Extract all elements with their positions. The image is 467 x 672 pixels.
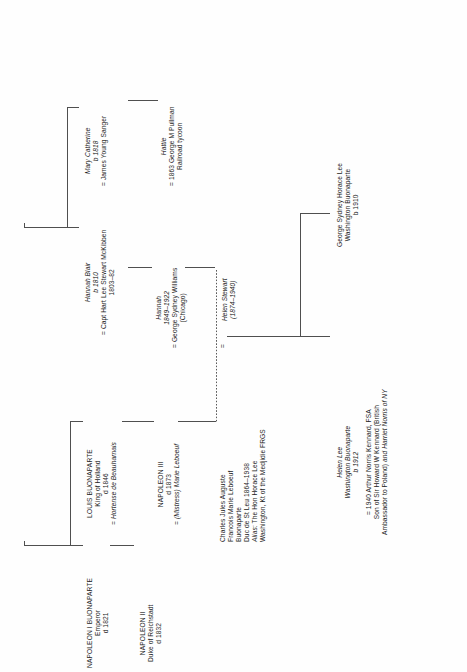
mary-catherine-name: Mary Catherine bbox=[84, 116, 92, 186]
connector-ancestor-tick-left bbox=[24, 541, 25, 546]
hannah-blair-spouse: = Capt Hart Lee Stewart McKibben bbox=[100, 230, 108, 335]
connector-ancestor-tick-top bbox=[24, 223, 25, 228]
charles-line-6: Washington, Kt of the Medjidie FRGS bbox=[259, 429, 267, 542]
family-tree-diagram: NAPOLEON I BUONAPARTE Emperor d 1821 NAP… bbox=[0, 0, 467, 672]
connector-napoleon1-to-napoleon2 bbox=[110, 545, 134, 546]
connector-napoleon3-to-charles bbox=[178, 421, 216, 422]
napoleon-iii-name: NAPOLEON III bbox=[157, 444, 165, 525]
person-napoleon-iii: NAPOLEON III d 1873 = (Mistress) Marie L… bbox=[157, 444, 181, 525]
helen-lee-spouse-note-1: Son of Sir Howard W Kennard (British bbox=[373, 389, 381, 535]
charles-alias-rest: The Hon Horace Lee bbox=[251, 460, 258, 525]
helen-stewart-dates: (1874–1940) bbox=[229, 278, 237, 321]
person-george-sydney: George Sydney Horace Lee Washington Buon… bbox=[336, 163, 360, 247]
connector-arm-louis bbox=[70, 421, 83, 422]
person-napoleon-ii: NAPOLEON II Duke of Reichstadt d 1832 bbox=[139, 604, 163, 662]
person-napoleon-i: NAPOLEON I BUONAPARTE Emperor d 1821 bbox=[86, 578, 110, 668]
connector-sibling-bar-children bbox=[300, 213, 301, 337]
connector-hannah-to-helenstewart bbox=[185, 267, 215, 268]
person-hattie: Hattie = 1863 George M Pullman Railroad … bbox=[160, 107, 184, 186]
hattie-note: Railroad tycoon bbox=[176, 107, 184, 186]
louis-title: King of Holland bbox=[94, 442, 102, 525]
hannah-blair-spouse-dates: 1803–82 bbox=[108, 230, 116, 335]
hannah-williams-dates: 1849–1922 bbox=[163, 268, 171, 348]
helen-lee-name: Helen Lee bbox=[336, 389, 344, 535]
helen-stewart-name: Helen Stewart bbox=[221, 278, 229, 321]
connector-ancestor-stub-top bbox=[24, 227, 67, 228]
hattie-name: Hattie bbox=[160, 107, 168, 186]
connector-ancestor-stub-left bbox=[24, 545, 70, 546]
george-sydney-birth: b 1910 bbox=[352, 163, 360, 247]
mary-catherine-spouse: = James Young Sanger bbox=[100, 116, 108, 186]
louis-spouse: = Hortense de Beauharnais bbox=[110, 442, 118, 525]
person-charles-buonaparte: Charles Jules Auguste Francois Marie Leb… bbox=[219, 429, 268, 542]
hattie-spouse: = 1863 George M Pullman bbox=[168, 107, 176, 186]
connector-arm-george-sydney bbox=[300, 213, 330, 214]
helen-lee-spouse-note-2a: Ambassador to Poland) bbox=[381, 462, 388, 535]
person-helen-stewart: Helen Stewart (1874–1940) bbox=[221, 278, 237, 321]
helen-lee-spouse: = 1940 Arthur Norris Kennard, FSA bbox=[365, 389, 373, 535]
napoleon-i-name: NAPOLEON I BUONAPARTE bbox=[86, 578, 94, 668]
george-sydney-line-2: Washington Buonaparte bbox=[344, 163, 352, 247]
connector-arm-helen-lee bbox=[300, 336, 330, 337]
napoleon-i-title: Emperor bbox=[94, 578, 102, 668]
hannah-williams-name: Hannah bbox=[155, 268, 163, 348]
connector-sibling-bar-mckibben bbox=[67, 107, 68, 228]
mary-catherine-birth: b 1818 bbox=[92, 116, 100, 186]
connector-arm-hannah-blair bbox=[67, 227, 79, 228]
connector-sibling-bar-napoleon bbox=[70, 421, 71, 546]
napoleon-ii-name: NAPOLEON II bbox=[139, 604, 147, 662]
charles-line-1: Charles Jules Auguste bbox=[219, 429, 227, 542]
person-louis-buonaparte: LOUIS BUONAPARTE King of Holland d 1846 … bbox=[86, 442, 118, 525]
marriage-symbol-charles-helen: = bbox=[219, 344, 226, 348]
hannah-blair-birth: b 1810 bbox=[92, 230, 100, 335]
louis-death: d 1846 bbox=[102, 442, 110, 525]
helen-lee-spouse-note-2b: and Harriet Norris of NY bbox=[381, 389, 388, 462]
hannah-williams-place: (Chicago) bbox=[179, 268, 187, 348]
napoleon-iii-death: d 1873 bbox=[165, 444, 173, 525]
napoleon-ii-death: d 1832 bbox=[155, 604, 163, 662]
hannah-williams-spouse: = George Sydney Williams bbox=[171, 268, 179, 348]
connector-union-to-children bbox=[227, 336, 300, 337]
connector-louis-to-napoleon3 bbox=[122, 421, 154, 422]
charles-line-3: Buonaparte bbox=[235, 429, 243, 542]
person-hannah-blair: Hannah Blair b 1810 = Capt Hart Lee Stew… bbox=[84, 230, 116, 335]
napoleon-i-death: d 1821 bbox=[102, 578, 110, 668]
person-hannah-williams: Hannah 1849–1922 = George Sydney William… bbox=[155, 268, 187, 348]
george-sydney-line-1: George Sydney Horace Lee bbox=[336, 163, 344, 247]
napoleon-ii-title: Duke of Reichstadt bbox=[147, 604, 155, 662]
connector-arm-mary-catherine bbox=[67, 107, 79, 108]
charles-line-2: Francois Marie Leboeuf bbox=[227, 429, 235, 542]
person-helen-lee: Helen Lee Washington Buonaparte b 1912 =… bbox=[336, 389, 390, 535]
connector-dotted-marriage-charles-helen bbox=[216, 270, 217, 422]
charles-alias-label: Alias: bbox=[251, 525, 258, 542]
charles-line-4: Duc de St Leu 1864–1938 bbox=[243, 429, 251, 542]
person-mary-catherine: Mary Catherine b 1818 = James Young Sang… bbox=[84, 116, 108, 186]
helen-lee-surname: Washington Buonaparte bbox=[344, 389, 352, 535]
connector-arm-napoleon1 bbox=[70, 545, 83, 546]
connector-hannahblair-to-hannah bbox=[128, 267, 152, 268]
louis-name: LOUIS BUONAPARTE bbox=[86, 442, 94, 525]
connector-marycatherine-to-hattie bbox=[128, 100, 158, 101]
hannah-blair-name: Hannah Blair bbox=[84, 230, 92, 335]
napoleon-iii-spouse: = (Mistress) Marie Leboeuf bbox=[173, 444, 181, 525]
helen-lee-birth: b 1912 bbox=[352, 389, 360, 535]
